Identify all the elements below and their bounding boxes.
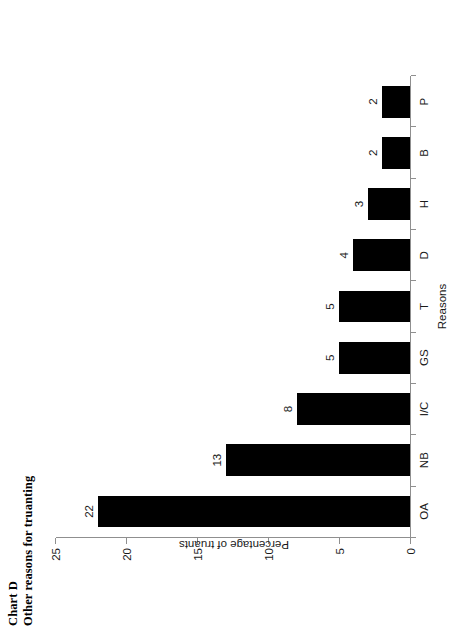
category-axis-tick xyxy=(411,486,416,487)
value-axis-tick-label: 0 xyxy=(405,548,417,554)
bar-slot: 13 xyxy=(56,435,410,486)
category-axis-label: B xyxy=(418,127,430,178)
chart-title-line-2: Other reasons for truanting xyxy=(21,476,36,626)
bar: 5 xyxy=(339,342,410,374)
bar-value-label: 13 xyxy=(211,454,223,467)
category-axis-label: NB xyxy=(418,435,430,486)
bar-slot: 5 xyxy=(56,281,410,332)
bar: 13 xyxy=(226,444,410,476)
chart-canvas: Chart D Other reasons for truanting 0510… xyxy=(0,0,452,634)
category-axis-label: GS xyxy=(418,332,430,383)
chart-title-line-1: Chart D xyxy=(6,476,21,626)
bar-value-label: 22 xyxy=(83,505,95,518)
bar-value-label: 2 xyxy=(367,98,379,104)
bar: 2 xyxy=(382,86,410,118)
value-axis-tick-label: 20 xyxy=(121,548,133,561)
category-axis-tick xyxy=(411,434,416,435)
bar-slot: 22 xyxy=(56,486,410,537)
category-axis-tick xyxy=(411,75,416,76)
x-axis-title: Reasons xyxy=(436,76,448,537)
bar-slot: 3 xyxy=(56,178,410,229)
bar-value-label: 8 xyxy=(282,406,294,412)
chart-title-block: Chart D Other reasons for truanting xyxy=(6,476,37,626)
category-axis-label: P xyxy=(418,76,430,127)
bar-value-label: 5 xyxy=(324,355,336,361)
bar-slot: 4 xyxy=(56,230,410,281)
value-axis-line xyxy=(56,537,411,538)
category-axis-label: H xyxy=(418,178,430,229)
value-axis-tick-label: 25 xyxy=(50,548,62,561)
bar-series: 22138554322 xyxy=(56,76,410,537)
value-axis-tick: 20 xyxy=(126,538,127,544)
category-axis-tick xyxy=(411,229,416,230)
bar-value-label: 4 xyxy=(338,252,350,258)
bar-value-label: 2 xyxy=(367,150,379,156)
category-axis-label: I/C xyxy=(418,383,430,434)
bar: 5 xyxy=(339,291,410,323)
plot-area: 0510152025 22138554322 OANBI/CGSTDHBP Re… xyxy=(56,76,411,538)
category-axis-tick xyxy=(411,280,416,281)
category-axis-tick xyxy=(411,126,416,127)
value-axis-tick-label: 5 xyxy=(334,548,346,554)
bar-value-label: 5 xyxy=(324,303,336,309)
bar: 3 xyxy=(368,188,410,220)
bar-slot: 2 xyxy=(56,76,410,127)
category-axis-tick xyxy=(411,178,416,179)
y-axis-title: Percentage of truants xyxy=(179,539,289,551)
category-axis-line xyxy=(410,76,411,538)
value-axis-tick: 5 xyxy=(339,538,340,544)
category-axis-tick xyxy=(411,537,416,538)
category-axis-tick xyxy=(411,383,416,384)
value-axis-tick: 0 xyxy=(410,538,411,544)
bar-slot: 5 xyxy=(56,332,410,383)
bar-slot: 2 xyxy=(56,127,410,178)
bar-slot: 8 xyxy=(56,383,410,434)
bar-value-label: 3 xyxy=(353,201,365,207)
value-axis-tick: 25 xyxy=(55,538,56,544)
category-axis-label: OA xyxy=(418,486,430,537)
bar: 22 xyxy=(98,496,410,528)
bar: 4 xyxy=(353,239,410,271)
category-axis-tick xyxy=(411,332,416,333)
category-axis-label: D xyxy=(418,230,430,281)
category-axis-labels: OANBI/CGSTDHBP xyxy=(418,76,430,537)
category-axis-label: T xyxy=(418,281,430,332)
bar: 2 xyxy=(382,137,410,169)
bar: 8 xyxy=(297,393,410,425)
